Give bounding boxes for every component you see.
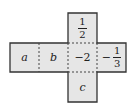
face-right: − 1 3 [97,43,126,72]
denominator: 3 [114,58,120,69]
label-a: a [21,51,28,64]
face-b: b [39,43,68,72]
fraction-one-half: 1 2 [78,17,86,40]
label-b: b [50,51,57,64]
denominator: 2 [79,29,85,40]
fraction: 1 3 [113,46,121,69]
label-c: c [79,81,85,94]
numerator: 1 [78,17,86,29]
numerator: 1 [113,46,121,58]
face-bottom: c [68,72,97,102]
negative-fraction-one-third: − 1 3 [102,46,122,69]
face-center: −2 [68,43,97,72]
face-a: a [10,43,39,72]
label-minus-two: −2 [74,51,90,64]
face-top: 1 2 [68,13,97,43]
minus-sign: − [102,51,111,64]
